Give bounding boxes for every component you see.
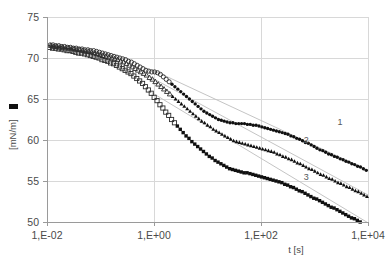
data-point <box>292 186 295 189</box>
data-point <box>234 122 237 125</box>
data-point <box>286 183 289 186</box>
data-point <box>263 176 266 179</box>
data-point <box>283 183 286 186</box>
data-point <box>283 132 286 135</box>
data-point <box>249 123 252 126</box>
data-point <box>240 122 243 125</box>
data-point <box>335 208 338 211</box>
data-point <box>234 169 237 172</box>
data-point <box>202 150 205 153</box>
data-point <box>271 178 274 181</box>
curve-label-1: 1 <box>338 117 343 127</box>
data-point <box>214 116 217 119</box>
data-point <box>353 163 356 166</box>
data-point <box>202 110 205 113</box>
data-point <box>263 126 266 129</box>
data-point <box>315 197 318 200</box>
data-point <box>356 165 359 168</box>
y-tick-label: 70 <box>27 52 39 64</box>
y-tick-label: 60 <box>27 134 39 146</box>
data-point <box>196 145 199 148</box>
x-axis-title: t [s] <box>288 244 303 255</box>
data-point <box>176 124 179 127</box>
data-point <box>324 151 327 154</box>
data-point <box>347 160 350 163</box>
data-point <box>365 169 368 172</box>
data-point <box>295 137 298 140</box>
data-point <box>350 216 353 219</box>
data-point <box>280 181 283 184</box>
data-point <box>170 83 173 86</box>
curve-label-2: 2 <box>304 135 309 145</box>
data-point <box>254 174 257 177</box>
data-point <box>216 160 219 163</box>
data-point <box>269 128 272 131</box>
data-point <box>292 135 295 138</box>
data-point <box>179 90 182 93</box>
y-tick-label: 55 <box>27 175 39 187</box>
data-point <box>274 179 277 182</box>
y-axis-title-units: [mN/m] <box>7 119 18 150</box>
data-point <box>211 115 214 118</box>
data-point <box>344 213 347 216</box>
data-point <box>333 155 336 158</box>
data-point <box>217 118 220 121</box>
data-point <box>324 202 327 205</box>
data-point <box>237 122 240 125</box>
data-point <box>181 131 184 134</box>
data-point <box>191 100 194 103</box>
data-point <box>190 140 193 143</box>
data-point <box>225 120 228 123</box>
data-point <box>318 148 321 151</box>
data-point <box>321 201 324 204</box>
data-point <box>344 160 347 163</box>
data-point <box>318 199 321 202</box>
data-point <box>182 92 185 95</box>
data-point <box>332 206 335 209</box>
data-point <box>196 105 199 108</box>
data-point <box>199 107 202 110</box>
data-point <box>338 210 341 213</box>
data-point <box>362 167 365 170</box>
data-point <box>312 197 315 200</box>
data-point <box>338 157 341 160</box>
data-point <box>237 169 240 172</box>
data-point <box>240 170 243 173</box>
data-point <box>225 165 228 168</box>
data-point <box>347 215 350 218</box>
data-point <box>243 122 246 125</box>
data-point <box>176 87 179 90</box>
data-point <box>277 180 280 183</box>
data-point <box>251 124 254 127</box>
data-point <box>222 164 225 167</box>
data-point <box>278 130 281 133</box>
y-tick-label: 75 <box>27 11 39 23</box>
x-tick-label: 1,E+00 <box>137 229 171 241</box>
data-point <box>185 95 188 98</box>
data-point <box>179 128 182 131</box>
data-point <box>205 111 208 114</box>
data-point <box>228 167 231 170</box>
data-point <box>257 174 260 177</box>
data-point <box>245 171 248 174</box>
data-point <box>300 190 303 193</box>
data-point <box>193 102 196 105</box>
data-point <box>231 121 234 124</box>
data-point <box>228 121 231 124</box>
data-point <box>260 125 263 128</box>
data-point <box>205 152 208 155</box>
data-point <box>260 175 263 178</box>
data-point <box>272 128 275 131</box>
data-point <box>309 195 312 198</box>
data-point <box>251 173 254 176</box>
data-point <box>321 149 324 152</box>
data-point <box>327 152 330 155</box>
data-point <box>336 156 339 159</box>
data-point <box>266 177 269 180</box>
y-tick-label: 50 <box>27 216 39 228</box>
data-point <box>199 147 202 150</box>
x-tick-label: 1,E+04 <box>351 229 385 241</box>
data-point <box>309 143 312 146</box>
data-point <box>269 178 272 181</box>
data-point <box>254 124 257 127</box>
